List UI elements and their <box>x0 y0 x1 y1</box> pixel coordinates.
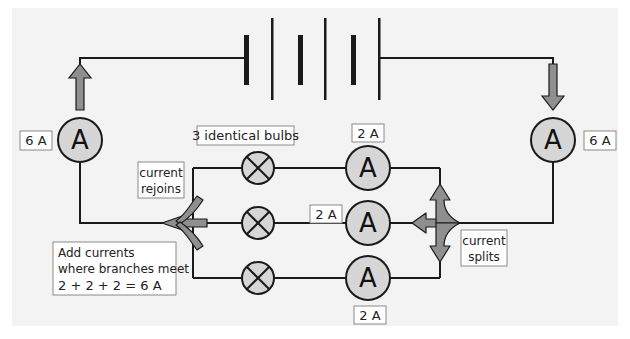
label-add-currents: Add currents where branches meet 2 + 2 +… <box>53 242 189 295</box>
svg-text:3 identical bulbs: 3 identical bulbs <box>192 128 299 143</box>
ammeter-symbol: A <box>359 208 377 238</box>
svg-text:splits: splits <box>468 250 500 264</box>
bulb-icon <box>242 152 274 184</box>
reading-branch-middle: 2 A <box>310 205 342 223</box>
svg-text:6 A: 6 A <box>589 133 610 148</box>
reading-main-left: 6 A <box>20 131 52 150</box>
svg-text:where branches meet: where branches meet <box>58 262 189 276</box>
ammeter-branch-top: A <box>346 146 390 190</box>
svg-text:2 A: 2 A <box>315 207 336 222</box>
label-current-rejoins: current rejoins <box>138 162 184 198</box>
ammeter-symbol: A <box>359 153 377 183</box>
svg-text:2 + 2 + 2 = 6 A: 2 + 2 + 2 = 6 A <box>58 278 162 293</box>
svg-text:2 A: 2 A <box>359 308 380 323</box>
ammeter-branch-middle: A <box>346 201 390 245</box>
bulb-icon <box>242 207 274 239</box>
reading-branch-top: 2 A <box>352 124 384 142</box>
reading-main-right: 6 A <box>584 131 616 150</box>
ammeter-symbol: A <box>544 125 562 155</box>
svg-text:6 A: 6 A <box>25 133 46 148</box>
ammeter-symbol: A <box>359 263 377 293</box>
reading-branch-bottom: 2 A <box>354 306 386 324</box>
ammeter-main-left: A <box>58 118 102 162</box>
label-current-splits: current splits <box>461 230 507 266</box>
svg-text:2 A: 2 A <box>357 126 378 141</box>
circuit-diagram: A A A A A <box>0 0 630 339</box>
svg-text:current: current <box>462 234 506 248</box>
ammeter-main-right: A <box>531 118 575 162</box>
svg-text:rejoins: rejoins <box>141 182 181 196</box>
ammeter-symbol: A <box>71 125 89 155</box>
svg-text:current: current <box>139 166 183 180</box>
label-identical-bulbs: 3 identical bulbs <box>192 126 299 145</box>
bulb-icon <box>242 262 274 294</box>
svg-text:Add currents: Add currents <box>58 246 135 260</box>
ammeter-branch-bottom: A <box>346 256 390 300</box>
